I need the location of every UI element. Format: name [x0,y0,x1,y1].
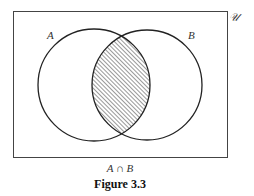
set-a-label: A [46,29,54,41]
figure-caption: Figure 3.3 [94,177,146,191]
universe-label: 𝒰 [229,11,242,23]
expression-label: A ∩ B [106,162,134,174]
set-b-label: B [188,29,195,41]
venn-diagram: 𝒰 A B A ∩ B Figure 3.3 [0,0,254,196]
